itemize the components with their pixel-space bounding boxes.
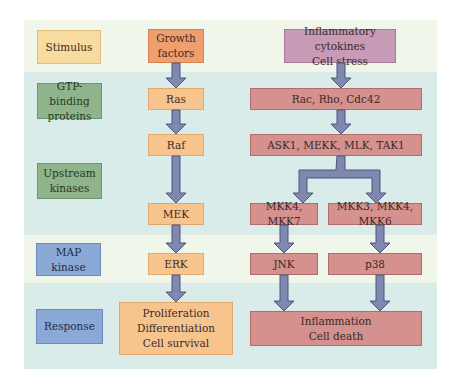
- label-gtp-binding-proteins: GTP-binding proteins: [37, 83, 102, 119]
- node-text: Inflammation: [300, 314, 371, 329]
- node-stress-response: Inflammation Cell death: [250, 311, 422, 346]
- node-ras: Ras: [148, 88, 204, 110]
- node-text: Growth: [156, 31, 196, 46]
- node-text: ASK1, MEKK, MLK, TAK1: [267, 138, 405, 153]
- node-text: Differentiation: [137, 321, 215, 336]
- node-text: Cell death: [309, 329, 363, 344]
- node-text: ERK: [164, 257, 187, 272]
- node-text: Cell survival: [143, 336, 209, 351]
- node-text: factors: [158, 46, 195, 61]
- node-text: Ras: [166, 92, 186, 107]
- node-text: JNK: [273, 257, 294, 272]
- node-growth-factors: Growth factors: [148, 29, 204, 63]
- node-text: Inflammatory cytokines: [285, 24, 395, 54]
- node-erk: ERK: [148, 253, 204, 275]
- node-rac-rho-cdc42: Rac, Rho, Cdc42: [250, 88, 422, 110]
- label-text: Upstream: [43, 166, 96, 181]
- node-text: MKK3, MKK4, MKK6: [329, 199, 421, 229]
- node-mkk3-mkk4-mkk6: MKK3, MKK4, MKK6: [328, 203, 422, 225]
- node-text: Rac, Rho, Cdc42: [292, 92, 381, 107]
- node-p38: p38: [328, 253, 422, 275]
- label-text: MAP: [56, 245, 81, 260]
- label-text: GTP-binding: [38, 79, 101, 109]
- label-text: kinase: [51, 260, 85, 275]
- node-text: Raf: [167, 138, 185, 153]
- node-erk-response: Proliferation Differentiation Cell survi…: [119, 302, 233, 355]
- label-map-kinase: MAP kinase: [36, 243, 101, 276]
- node-mkk4-mkk7: MKK4, MKK7: [250, 203, 318, 225]
- label-text: kinases: [50, 181, 90, 196]
- label-stimulus: Stimulus: [37, 30, 101, 64]
- node-text: Cell stress: [312, 54, 368, 69]
- node-text: Proliferation: [142, 306, 209, 321]
- node-text: MEK: [163, 207, 189, 222]
- node-raf: Raf: [148, 134, 204, 156]
- node-text: MKK4, MKK7: [251, 199, 317, 229]
- node-jnk: JNK: [250, 253, 318, 275]
- label-response: Response: [36, 309, 103, 344]
- label-text: Stimulus: [46, 40, 93, 55]
- label-text: proteins: [47, 109, 91, 124]
- node-text: p38: [365, 257, 385, 272]
- label-text: Response: [44, 319, 95, 334]
- node-inflammatory-cytokines: Inflammatory cytokines Cell stress: [284, 29, 396, 63]
- label-upstream-kinases: Upstream kinases: [37, 163, 102, 199]
- node-ask1-mekk-mlk-tak1: ASK1, MEKK, MLK, TAK1: [250, 134, 422, 156]
- node-mek: MEK: [148, 203, 204, 225]
